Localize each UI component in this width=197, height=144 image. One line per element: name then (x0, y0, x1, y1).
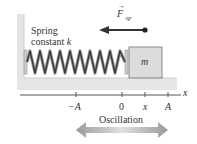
axis-label: x (183, 88, 187, 98)
tick-label-x: x (143, 102, 147, 112)
tick-label-zero: 0 (119, 102, 124, 112)
spring (24, 50, 128, 74)
tick-label-neg-a: −A (68, 102, 81, 112)
force-arrow (99, 26, 148, 34)
force-subscript: sp (126, 15, 131, 21)
x-axis (20, 92, 181, 97)
spring-constant-symbol: k (67, 36, 71, 47)
tick-label-a: A (165, 102, 171, 112)
spring-label-line1: Spring (31, 25, 58, 36)
oscillation-label: Oscillation (99, 115, 143, 125)
spring-label: Spring (31, 26, 58, 36)
mass-label: m (141, 57, 148, 67)
spring-constant-label: constant k (31, 37, 71, 47)
force-label: → F sp (117, 9, 131, 19)
floor (17, 78, 177, 90)
